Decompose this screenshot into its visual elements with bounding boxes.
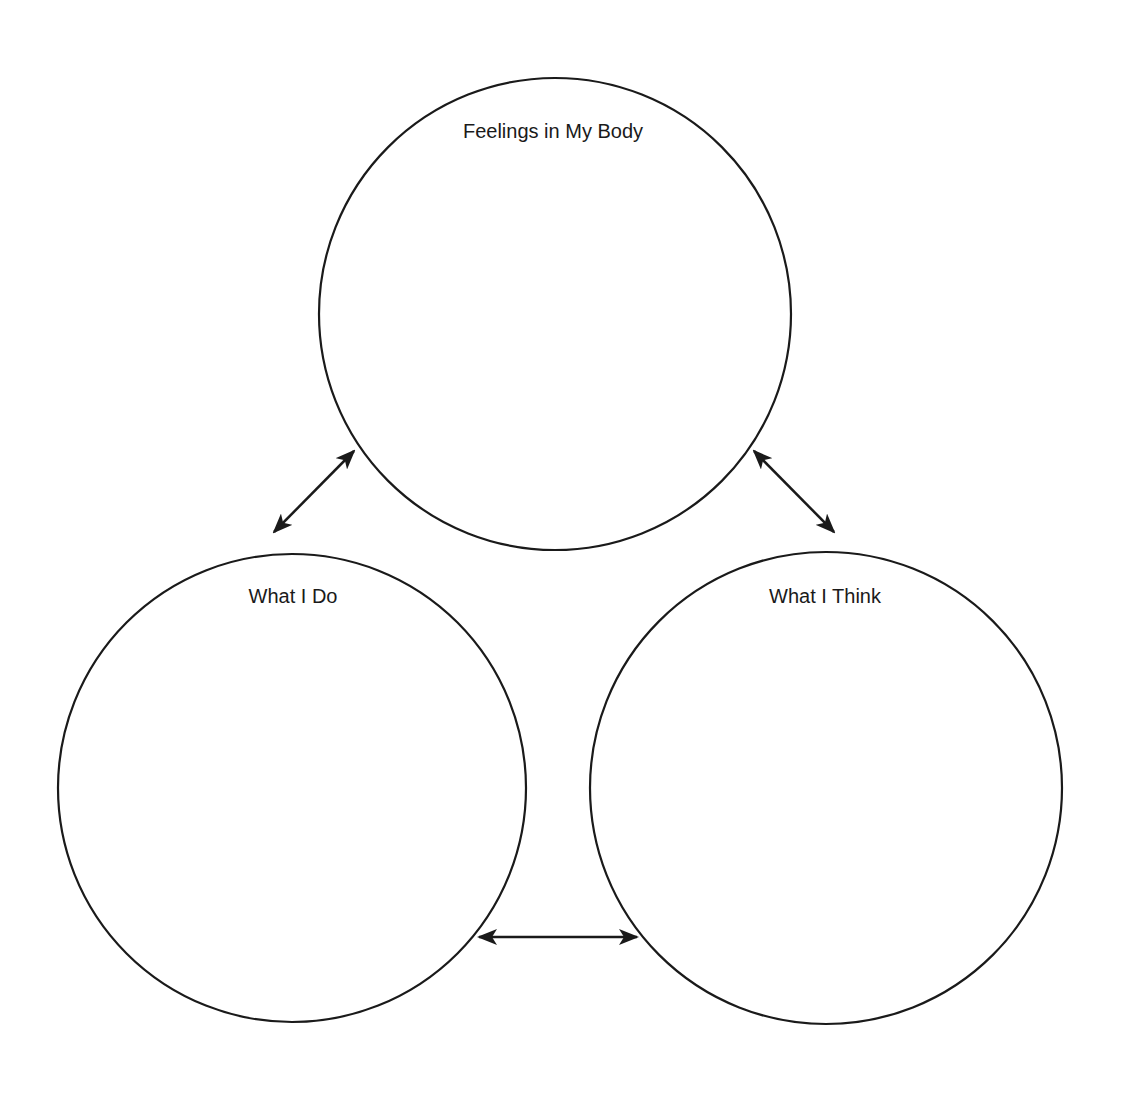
node-label-do: What I Do — [249, 585, 338, 607]
node-label-body: Feelings in My Body — [463, 120, 643, 142]
circle-think — [590, 552, 1062, 1024]
node-do: What I Do — [58, 554, 526, 1022]
circle-body — [319, 78, 791, 550]
node-body: Feelings in My Body — [319, 78, 791, 550]
circle-do — [58, 554, 526, 1022]
double-arrow-icon — [274, 451, 354, 532]
feelings-thoughts-actions-diagram: Feelings in My BodyWhat I DoWhat I Think — [0, 0, 1138, 1103]
double-arrow-icon — [754, 451, 834, 532]
node-label-think: What I Think — [769, 585, 882, 607]
node-think: What I Think — [590, 552, 1062, 1024]
